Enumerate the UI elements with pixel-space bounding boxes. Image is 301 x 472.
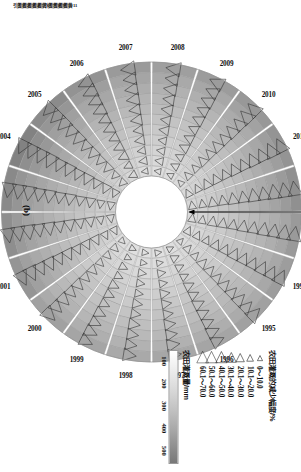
colorbar-wrap: 100200300400500 — [157, 350, 178, 462]
figure-stage: 1993199419951996199719981999200020012002… — [0, 0, 301, 472]
year-label: 2004 — [0, 133, 10, 141]
legend-item-label: 30.1～40.0 — [225, 366, 235, 397]
year-label: 2000 — [27, 325, 41, 333]
legend-item: 60.1～70.0 — [197, 350, 207, 468]
legend-item-label: 0～10.0 — [254, 366, 264, 389]
legend-item-label: 20.1～30.0 — [235, 366, 245, 397]
year-label: 2006 — [69, 60, 83, 68]
legend-item: 0～10.0 — [254, 350, 264, 468]
colorbar-tick-label: 400 — [160, 423, 167, 433]
figure-page: 1993199419951996199719981999200020012002… — [0, 0, 301, 472]
colorbar-tick-label: 100 — [160, 356, 167, 366]
colorbar-ticks: 100200300400500 — [157, 350, 167, 462]
legend-item: 50.1～60.0 — [206, 350, 216, 468]
colorbar-tick-label: 300 — [160, 401, 167, 411]
radial-tick-label: 引黄1 — [12, 2, 24, 8]
legend-item: 30.1～40.0 — [226, 350, 236, 468]
year-label: 2008 — [170, 44, 184, 52]
colorbar-title: 农田灌溉量/mm — [181, 350, 191, 468]
legend-item-label: 40.1～50.0 — [216, 366, 226, 397]
year-label: 1999 — [69, 356, 83, 364]
legend-triangle-icon — [192, 350, 212, 366]
legend-item-label: 60.1～70.0 — [197, 366, 207, 397]
year-label: 2005 — [27, 91, 41, 99]
year-label: 1995 — [262, 325, 276, 333]
legend: 农田灌溉的减少幅度/% 0～10.010.1～20.020.1～30.030.1… — [165, 350, 277, 468]
year-label: 2007 — [118, 44, 132, 52]
legend-rows: 0～10.010.1～20.020.1～30.030.1～40.040.1～50… — [197, 350, 264, 468]
colorbar-tick-label: 500 — [160, 446, 167, 456]
legend-triangle-icon — [255, 350, 264, 366]
year-label: 2010 — [262, 91, 276, 99]
year-label: 2009 — [220, 60, 234, 68]
radial-tick-labels: 引黄11引黄10引黄9引黄8引黄7引黄6引黄5引黄4引黄3引黄2引黄1 — [5, 2, 63, 62]
polar-irrigation-chart: 1993199419951996199719981999200020012002… — [0, 56, 301, 368]
year-label: 2001 — [0, 283, 10, 291]
year-label: 1994 — [292, 283, 301, 291]
legend-title: 农田灌溉的减少幅度/% — [267, 350, 277, 468]
year-label: 2011 — [292, 133, 301, 141]
legend-item: 20.1～30.0 — [235, 350, 245, 468]
legend-item: 10.1～20.0 — [245, 350, 255, 468]
legend-item-label: 50.1～60.0 — [206, 366, 216, 397]
colorbar-tick-label: 200 — [160, 379, 167, 389]
legend-item: 40.1～50.0 — [216, 350, 226, 468]
legend-item-label: 10.1～20.0 — [245, 366, 255, 397]
colorbar-gradient — [168, 350, 178, 464]
panel-label: (b) — [21, 205, 31, 216]
year-label: 1998 — [118, 372, 132, 380]
inner-hole — [115, 176, 187, 248]
polar-chart-svg — [0, 56, 301, 368]
